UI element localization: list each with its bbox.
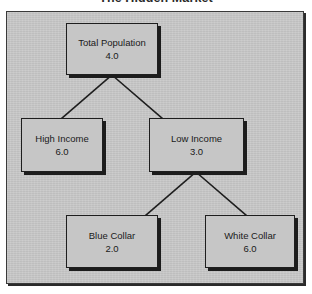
node-value: 3.0 — [190, 145, 203, 158]
node-high-income[interactable]: High Income 6.0 — [21, 118, 103, 172]
node-label: High Income — [35, 132, 88, 145]
node-value: 4.0 — [105, 49, 118, 62]
diagram-page: The Hidden Market Total Population 4.0 H… — [0, 0, 312, 294]
node-label: Total Population — [78, 36, 146, 49]
node-value: 2.0 — [105, 242, 118, 255]
node-label: White Collar — [224, 229, 276, 242]
node-value: 6.0 — [55, 145, 68, 158]
page-title: The Hidden Market — [0, 0, 312, 5]
node-label: Low Income — [171, 132, 222, 145]
node-white-collar[interactable]: White Collar 6.0 — [205, 215, 295, 268]
node-blue-collar[interactable]: Blue Collar 2.0 — [66, 215, 158, 268]
node-label: Blue Collar — [89, 229, 135, 242]
node-low-income[interactable]: Low Income 3.0 — [149, 118, 244, 172]
node-total-population[interactable]: Total Population 4.0 — [66, 23, 158, 75]
node-value: 6.0 — [243, 242, 256, 255]
